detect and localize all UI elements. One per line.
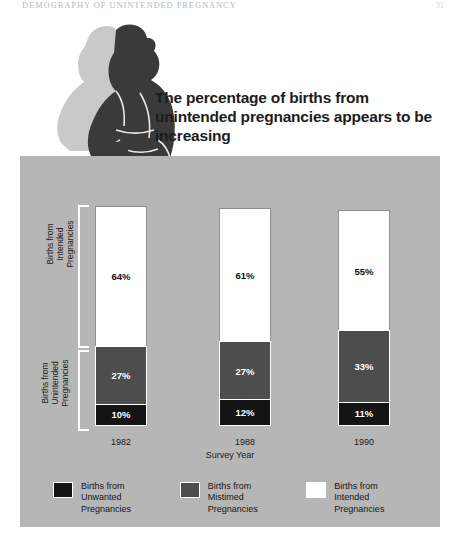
legend-intended-line1: Births from (334, 481, 378, 491)
legend-swatch-unwanted-icon (53, 482, 73, 498)
legend-item-mistimed: Births from Mistimed Pregnancies (180, 481, 307, 516)
legend-unwanted-line3: Pregnancies (81, 504, 131, 514)
axis-group-unintended-line2: Unintended (50, 361, 60, 404)
legend-unwanted-line1: Births from (81, 481, 125, 491)
legend-mistimed-line2: Mistimed (208, 492, 244, 502)
axis-group-label-intended: Births from Intended Pregnancies (45, 173, 77, 315)
bar-segment-mistimed: 33% (338, 330, 390, 403)
bar-segment-unwanted: 11% (338, 402, 390, 426)
page-number: 31 (436, 0, 445, 10)
legend-unwanted-line2: Unwanted (81, 492, 122, 502)
axis-group-unintended-line3: Pregnancies (60, 359, 70, 406)
chart-title: The percentage of births from unintended… (155, 88, 445, 145)
axis-group-label-unintended: Births from Unintended Pregnancies (40, 343, 72, 423)
bar-segment-intended: 64% (95, 206, 147, 347)
legend-intended-line3: Pregnancies (334, 504, 384, 514)
bar-column-1990: 55% 33% 11% (338, 210, 390, 426)
bar-segment-mistimed: 27% (95, 346, 147, 406)
legend-label-mistimed: Births from Mistimed Pregnancies (208, 481, 258, 516)
bar-segment-unwanted: 10% (95, 404, 147, 426)
x-axis-tick-1990: 1990 (338, 437, 390, 447)
legend-mistimed-line3: Pregnancies (208, 504, 258, 514)
legend-item-intended: Births from Intended Pregnancies (306, 481, 433, 516)
bar-segment-intended: 61% (219, 208, 271, 343)
bar-segment-mistimed: 27% (219, 341, 271, 401)
chart-panel: Births from Intended Pregnancies Births … (20, 156, 440, 527)
axis-group-unintended-line1: Births from (40, 362, 50, 403)
bar-segment-intended: 55% (338, 210, 390, 332)
axis-group-intended-line3: Pregnancies (65, 220, 75, 267)
bar-segment-unwanted: 12% (219, 399, 271, 426)
x-axis-tick-1988: 1988 (219, 437, 271, 447)
x-axis-tick-1982: 1982 (95, 437, 147, 447)
legend-intended-line2: Intended (334, 492, 369, 502)
bar-column-1982: 64% 27% 10% (95, 206, 147, 426)
chart-legend: Births from Unwanted Pregnancies Births … (53, 481, 433, 516)
legend-item-unwanted: Births from Unwanted Pregnancies (53, 481, 180, 516)
bracket-unintended (78, 350, 89, 431)
legend-label-intended: Births from Intended Pregnancies (334, 481, 384, 516)
x-axis-title: Survey Year (20, 450, 440, 460)
legend-swatch-mistimed-icon (180, 482, 200, 498)
axis-group-intended-line2: Intended (55, 227, 65, 260)
legend-mistimed-line1: Births from (208, 481, 252, 491)
bar-column-1988: 61% 27% 12% (219, 208, 271, 426)
axis-group-intended-line1: Births from (45, 223, 55, 264)
legend-swatch-intended-icon (306, 482, 326, 498)
legend-label-unwanted: Births from Unwanted Pregnancies (81, 481, 131, 516)
bracket-intended (78, 205, 89, 348)
running-head: DEMOGRAPHY OF UNINTENDED PREGNANCY (22, 0, 442, 12)
